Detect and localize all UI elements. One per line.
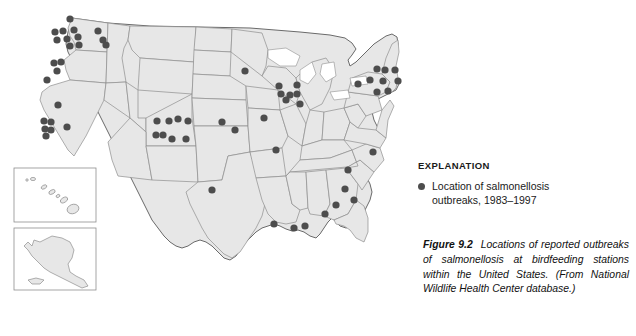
outbreak-location-dot <box>260 114 267 121</box>
legend-entry-line-2: outbreaks, 1983–1997 <box>432 193 549 207</box>
state-iowa <box>246 86 280 110</box>
outbreak-location-dot <box>381 66 388 73</box>
outbreak-location-dot <box>231 126 238 133</box>
outbreak-location-dot <box>293 81 300 88</box>
outbreak-location-dot <box>50 59 57 66</box>
outbreak-location-dot <box>321 210 328 217</box>
outbreak-location-dot <box>373 65 380 72</box>
figure-caption-label: Figure 9.2 <box>423 239 473 250</box>
outbreak-location-dot <box>43 76 50 83</box>
outbreak-location-dot <box>272 146 279 153</box>
outbreak-location-dot <box>70 26 77 33</box>
outbreak-location-dot <box>369 148 376 155</box>
state-california <box>40 80 106 156</box>
outbreak-location-dot <box>66 15 73 22</box>
state-oregon <box>64 50 107 83</box>
outbreak-location-dot <box>47 126 54 133</box>
map-legend: EXPLANATION Location of salmonellosis ou… <box>418 160 630 207</box>
filled-circle-icon <box>418 183 425 190</box>
state-montana <box>128 26 196 62</box>
outbreak-location-dot <box>344 166 351 173</box>
outbreak-location-dot <box>152 131 159 138</box>
outbreak-location-dot <box>47 118 54 125</box>
map-landmass <box>40 18 399 260</box>
state-arkansas <box>250 148 286 178</box>
outbreak-location-dot <box>293 90 300 97</box>
outbreak-location-dot <box>74 33 81 40</box>
legend-entry-line-1: Location of salmonellosis <box>432 180 549 192</box>
outbreak-location-dot <box>366 76 373 83</box>
outbreak-location-dot <box>53 36 60 43</box>
us-map-graphic <box>0 0 420 336</box>
outbreak-location-dot <box>275 82 282 89</box>
outbreak-location-dot <box>159 131 166 138</box>
outbreak-location-dot <box>301 222 308 229</box>
legend-title: EXPLANATION <box>418 160 630 171</box>
legend-entry: Location of salmonellosis outbreaks, 198… <box>418 179 630 207</box>
outbreak-location-dot <box>153 117 160 124</box>
outbreak-location-dot <box>394 77 401 84</box>
outbreak-location-dot <box>184 117 191 124</box>
outbreak-location-dot <box>59 27 66 34</box>
outbreak-location-dot <box>102 41 109 48</box>
outbreak-location-dot <box>165 117 172 124</box>
outbreak-location-dot <box>182 135 189 142</box>
outbreak-location-dot <box>373 88 380 95</box>
legend-entry-text: Location of salmonellosis outbreaks, 198… <box>432 179 549 207</box>
outbreak-location-dot <box>40 117 47 124</box>
state-north-dakota <box>194 27 232 52</box>
outbreak-location-dot <box>41 125 48 132</box>
hawaii-inset <box>14 168 96 222</box>
outbreak-location-dot <box>241 67 248 74</box>
outbreak-location-dot <box>63 123 70 130</box>
outbreak-location-dot <box>63 35 70 42</box>
outbreak-location-dot <box>53 67 60 74</box>
outbreak-location-dot <box>282 96 289 103</box>
outbreak-location-dot <box>75 41 82 48</box>
outbreak-location-dot <box>354 80 361 87</box>
outbreak-location-dot <box>296 100 303 107</box>
outbreak-location-dot <box>277 90 284 97</box>
figure-9-2-container: EXPLANATION Location of salmonellosis ou… <box>0 0 636 336</box>
outbreak-location-dot <box>270 220 277 227</box>
outbreak-location-dot <box>42 132 49 139</box>
outbreak-location-dot <box>168 135 175 142</box>
outbreak-location-dot <box>174 115 181 122</box>
outbreak-location-dot <box>208 186 215 193</box>
outbreak-location-dot <box>290 224 297 231</box>
state-alabama <box>306 170 330 216</box>
outbreak-location-dot <box>94 27 101 34</box>
outbreak-location-dot <box>51 28 58 35</box>
state-south-dakota <box>193 50 231 76</box>
outbreak-location-dot <box>332 201 339 208</box>
outbreak-location-dot <box>341 185 348 192</box>
outbreak-location-dot <box>218 118 225 125</box>
state-wyoming <box>138 58 194 94</box>
outbreak-location-dot <box>57 58 64 65</box>
outbreak-location-dot <box>350 196 357 203</box>
state-new-mexico <box>146 146 198 182</box>
figure-caption: Figure 9.2Locations of reported outbreak… <box>423 238 629 297</box>
outbreak-location-dot <box>391 66 398 73</box>
lake-erie <box>330 90 350 100</box>
hawaii-inset-frame <box>14 168 96 222</box>
outbreak-location-dot <box>384 87 391 94</box>
map-svg <box>0 0 420 336</box>
alaska-inset <box>14 228 96 290</box>
outbreak-location-dot <box>54 101 61 108</box>
outbreak-location-dot <box>66 42 73 49</box>
outbreak-location-dot <box>379 77 386 84</box>
